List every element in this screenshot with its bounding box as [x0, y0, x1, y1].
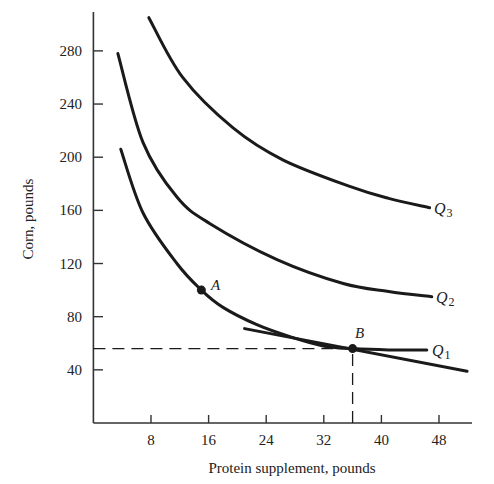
point-b-marker	[348, 344, 357, 353]
x-tick-label: 24	[259, 432, 275, 448]
q2-label: Q2	[436, 289, 455, 309]
q1-curve	[121, 149, 427, 350]
q3-label: Q3	[434, 200, 453, 220]
x-tick-label: 16	[201, 432, 217, 448]
y-axis-title: Corn, pounds	[20, 178, 36, 259]
x-tick-label: 32	[316, 432, 331, 448]
marked-points	[197, 286, 357, 353]
x-axis-ticks: 81624324048	[147, 415, 446, 448]
isoquant-chart: 81624324048 4080120160200240280 Q3 Q2 Q1…	[0, 0, 494, 484]
isoquant-curves	[118, 18, 467, 372]
y-tick-label: 240	[60, 96, 83, 112]
y-tick-label: 120	[60, 256, 83, 272]
dashed-guides	[93, 349, 352, 423]
x-axis-title: Protein supplement, pounds	[208, 460, 375, 476]
curve-labels: Q3 Q2 Q1	[432, 200, 455, 362]
q2-curve	[118, 54, 432, 297]
y-tick-label: 40	[67, 362, 82, 378]
x-tick-label: 8	[147, 432, 155, 448]
point-b-label: B	[355, 325, 364, 341]
y-tick-label: 80	[67, 309, 82, 325]
y-tick-label: 200	[60, 149, 83, 165]
point-a-marker	[197, 286, 206, 295]
x-tick-label: 40	[374, 432, 389, 448]
point-a-label: A	[210, 277, 221, 293]
y-axis-ticks: 4080120160200240280	[60, 43, 104, 378]
y-tick-label: 160	[60, 202, 83, 218]
axes: 81624324048 4080120160200240280	[60, 12, 473, 448]
q3-curve	[149, 18, 430, 208]
y-tick-label: 280	[60, 43, 83, 59]
q1-label: Q1	[432, 342, 451, 362]
x-tick-label: 48	[432, 432, 447, 448]
